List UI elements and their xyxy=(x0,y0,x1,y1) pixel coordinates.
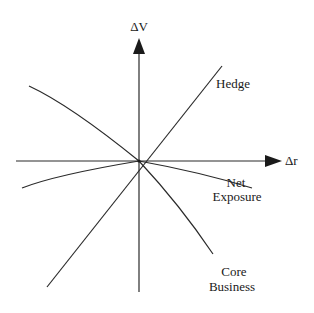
y-axis-arrowhead-icon xyxy=(133,38,145,54)
net-exposure-label-line2: Exposure xyxy=(212,189,261,204)
y-axis-label: ΔV xyxy=(130,19,148,34)
x-axis-arrowhead-icon xyxy=(265,155,282,167)
origin-point xyxy=(137,159,140,162)
sensitivity-diagram: ΔV Δr Hedge Core Business Net Exposure xyxy=(0,0,314,313)
core-business-label-line2: Business xyxy=(209,279,255,294)
hedge-label: Hedge xyxy=(216,76,250,91)
net-exposure-curve xyxy=(22,161,252,188)
core-business-label-line1: Core xyxy=(221,264,247,279)
x-axis-label: Δr xyxy=(285,153,298,168)
hedge-line xyxy=(47,66,222,287)
net-exposure-label-line1: Net xyxy=(227,175,246,190)
